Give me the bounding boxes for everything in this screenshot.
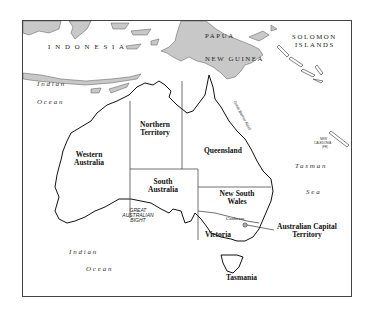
label-queensland: Queensland [195, 147, 251, 155]
label-indonesia: I N D O N E S I A [48, 44, 125, 51]
label-papua: PAPUA [205, 33, 235, 40]
label-act: Australian Capital Territory [272, 223, 342, 238]
label-tasmania: Tasmania [226, 274, 257, 282]
label-nsw-line-2: Wales [209, 198, 265, 206]
label-indian-ocean-sw-2: Ocean [86, 266, 113, 273]
label-sa-line-2: Australia [133, 186, 193, 194]
solomon-islands-landmass [277, 45, 323, 83]
label-new-caledonia-3: (FR) [322, 146, 328, 149]
new-guinea-landmass [161, 21, 263, 79]
label-sea: Sea [306, 189, 322, 196]
label-act-line-2: Territory [272, 231, 342, 239]
label-western-australia: Western Australia [62, 151, 116, 166]
label-canberra: Canberra [226, 216, 244, 221]
label-indian-ocean-sw-1: Indian [69, 249, 98, 256]
label-nt-line-2: Territory [129, 129, 181, 137]
label-new-guinea: NEW GUINEA [205, 56, 264, 63]
label-victoria: Victoria [205, 231, 231, 239]
new-caledonia-landmass [329, 131, 349, 147]
label-islands: ISLANDS [295, 42, 335, 49]
label-great-australian-bight: GREAT AUSTRALIAN BIGHT [120, 208, 156, 223]
label-northern-territory: Northern Territory [129, 121, 181, 136]
label-indian-ocean-nw-1: Indian [37, 81, 66, 88]
label-new-south-wales: New South Wales [209, 190, 265, 205]
label-bight-line-3: BIGHT [120, 218, 156, 223]
label-indian-ocean-nw-2: Ocean [37, 99, 64, 106]
label-wa-line-2: Australia [62, 159, 116, 167]
label-tasman: Tasman [295, 163, 327, 170]
label-south-australia: South Australia [133, 178, 193, 193]
label-solomon: SOLOMON [292, 34, 337, 41]
tasmania-landmass [221, 255, 243, 273]
